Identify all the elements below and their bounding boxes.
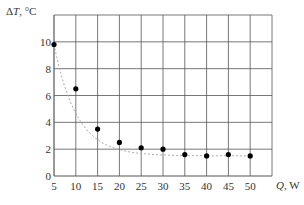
x-tick-label: 35: [179, 180, 191, 192]
x-tick-label: 25: [136, 180, 148, 192]
x-tick-label: 45: [223, 180, 235, 192]
data-point: [226, 152, 231, 157]
y-tick-label: 10: [40, 36, 52, 48]
x-tick-label: 5: [51, 180, 57, 192]
x-axis-label: Q, W: [276, 179, 300, 191]
x-tick-label: 10: [70, 180, 82, 192]
data-point: [95, 126, 100, 131]
y-axis-label: ΔT, °C: [6, 5, 36, 17]
x-tick-label: 40: [201, 180, 213, 192]
data-point: [160, 147, 165, 152]
fit-curve: [54, 45, 250, 156]
grid: [54, 15, 272, 176]
data-point: [204, 153, 209, 158]
data-point: [117, 140, 122, 145]
chart: 5101520253035404550 0246810 ΔT, °C Q, W: [0, 0, 304, 205]
x-tick-labels: 5101520253035404550: [51, 180, 256, 192]
data-point: [139, 145, 144, 150]
y-tick-label: 0: [46, 170, 52, 182]
x-tick-label: 50: [245, 180, 257, 192]
y-tick-label: 6: [46, 90, 52, 102]
data-point: [182, 152, 187, 157]
y-tick-label: 8: [46, 63, 52, 75]
x-tick-label: 30: [158, 180, 170, 192]
x-tick-label: 15: [92, 180, 104, 192]
data-point: [73, 86, 78, 91]
y-tick-label: 4: [46, 116, 52, 128]
data-points: [51, 42, 252, 159]
data-point: [248, 153, 253, 158]
x-tick-label: 20: [114, 180, 126, 192]
y-tick-label: 2: [46, 143, 52, 155]
data-point: [51, 42, 56, 47]
y-tick-labels: 0246810: [40, 36, 52, 182]
